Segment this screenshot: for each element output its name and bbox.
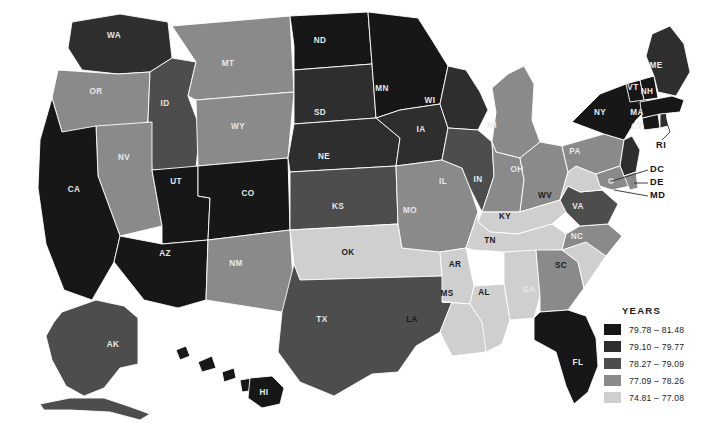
legend-label: 79.10 – 79.77 <box>629 342 684 352</box>
label-MS: MS <box>440 289 453 298</box>
state-WY[interactable] <box>196 92 294 166</box>
legend-item[interactable]: 77.09 – 78.26 <box>604 374 716 387</box>
label-KY: KY <box>499 212 511 221</box>
legend-rows: 79.78 – 81.4879.10 – 79.7778.27 – 79.097… <box>604 323 716 404</box>
label-OR: OR <box>89 87 102 96</box>
state-SD[interactable] <box>294 64 376 124</box>
state-RI[interactable] <box>660 112 668 128</box>
label-MT: MT <box>222 59 235 68</box>
state-WA[interactable] <box>68 14 172 74</box>
label-NE: NE <box>318 152 330 161</box>
legend-swatch <box>604 392 621 403</box>
label-MI: MI <box>487 121 497 130</box>
label-SD: SD <box>314 108 326 117</box>
state-FL[interactable] <box>534 310 598 404</box>
label-ND: ND <box>314 36 327 45</box>
label-AL: AL <box>478 288 490 297</box>
state-AK[interactable] <box>46 300 138 396</box>
state-NM[interactable] <box>206 230 294 312</box>
label-NY: NY <box>594 108 606 117</box>
label-NM: NM <box>229 259 243 268</box>
label-SC: SC <box>555 261 567 270</box>
map-figure: WA OR ID MT WY NV CA UT AZ CO NM ND SD N… <box>0 0 718 428</box>
label-OH: OH <box>510 165 523 174</box>
label-TN: TN <box>484 236 496 245</box>
label-MA: MA <box>630 108 644 117</box>
label-AK: AK <box>107 340 120 349</box>
label-MN: MN <box>375 84 389 93</box>
state-WI[interactable] <box>440 66 488 130</box>
label-IA: IA <box>417 125 426 134</box>
label-ID: ID <box>161 99 170 108</box>
legend-label: 78.27 – 79.09 <box>629 359 684 369</box>
label-TX: TX <box>316 315 327 324</box>
map-legend: YEARS 79.78 – 81.4879.10 – 79.7778.27 – … <box>604 305 716 408</box>
label-IL: IL <box>439 177 447 186</box>
label-UT: UT <box>170 177 182 186</box>
label-KS: KS <box>332 202 344 211</box>
legend-label: 79.78 – 81.48 <box>629 325 684 335</box>
legend-swatch <box>604 358 621 369</box>
label-CT: CT <box>631 122 643 131</box>
state-ND[interactable] <box>290 12 372 70</box>
callout-label-MD: MD <box>650 190 665 200</box>
label-CO: CO <box>241 189 254 198</box>
state-HI-2[interactable] <box>198 356 216 372</box>
state-VA[interactable] <box>560 186 618 226</box>
label-LA: LA <box>406 315 418 324</box>
label-WA: WA <box>107 31 121 40</box>
label-VT: VT <box>627 83 638 92</box>
state-ID[interactable] <box>148 58 200 170</box>
label-NH: NH <box>641 87 654 96</box>
label-WY: WY <box>231 122 245 131</box>
label-MO: MO <box>403 206 417 215</box>
label-IN: IN <box>474 175 483 184</box>
label-AZ: AZ <box>159 249 171 258</box>
legend-item[interactable]: 79.10 – 79.77 <box>604 340 716 353</box>
label-OK: OK <box>341 248 354 257</box>
legend-item[interactable]: 79.78 – 81.48 <box>604 323 716 336</box>
legend-title: YEARS <box>622 305 716 316</box>
state-KS[interactable] <box>290 166 398 230</box>
callout-line-MD <box>614 190 648 196</box>
state-AK-aleutians[interactable] <box>40 398 150 420</box>
label-GA: GA <box>522 285 535 294</box>
legend-swatch <box>604 324 621 335</box>
label-NV: NV <box>118 153 130 162</box>
state-NE[interactable] <box>288 118 400 172</box>
callout-label-DE: DE <box>650 177 664 187</box>
label-WV: WV <box>538 191 552 200</box>
state-CO[interactable] <box>198 158 290 240</box>
label-WI: WI <box>425 96 436 105</box>
label-FL: FL <box>573 358 584 367</box>
label-CA: CA <box>68 185 81 194</box>
state-HI-1[interactable] <box>176 346 190 360</box>
state-MN[interactable] <box>368 12 448 118</box>
label-HI: HI <box>260 388 269 397</box>
label-PA: PA <box>569 147 581 156</box>
legend-label: 74.81 – 77.08 <box>629 393 684 403</box>
state-AZ[interactable] <box>114 236 208 308</box>
label-NC: NC <box>571 232 584 241</box>
callout-label-RI: RI <box>656 140 666 150</box>
label-AR: AR <box>449 260 462 269</box>
legend-item[interactable]: 74.81 – 77.08 <box>604 391 716 404</box>
legend-swatch <box>604 375 621 386</box>
legend-label: 77.09 – 78.26 <box>629 376 684 386</box>
state-HI-3[interactable] <box>222 368 236 382</box>
state-MT[interactable] <box>172 16 294 100</box>
legend-swatch <box>604 341 621 352</box>
label-ME: ME <box>649 61 662 70</box>
callout-label-DC: DC <box>650 164 664 174</box>
state-TX[interactable] <box>278 264 452 396</box>
legend-item[interactable]: 78.27 – 79.09 <box>604 357 716 370</box>
state-MI[interactable] <box>492 66 540 158</box>
label-VA: VA <box>572 202 584 211</box>
